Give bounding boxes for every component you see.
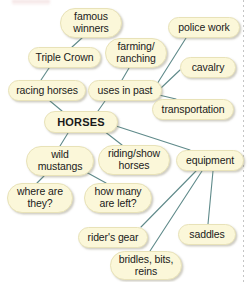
node-uses-in-past[interactable]: uses in past <box>88 80 162 101</box>
node-label-equipment: equipment <box>182 155 238 167</box>
edge-wild-mustangs-how-many-left <box>86 172 106 183</box>
node-racing-horses[interactable]: racing horses <box>8 80 86 101</box>
edge-uses-farming-ranching <box>122 68 129 80</box>
node-label-riding-show-horses: riding/show horses <box>104 148 164 172</box>
node-label-riders-gear: rider's gear <box>84 232 142 244</box>
concept-map-canvas: famous winnerspolice workfarming/ ranchi… <box>0 0 252 282</box>
node-label-wild-mustangs: wild mustangs <box>32 149 88 173</box>
node-label-famous-winners: famous winners <box>66 11 116 35</box>
node-famous-winners[interactable]: famous winners <box>60 8 122 38</box>
node-equipment[interactable]: equipment <box>176 150 244 171</box>
edge-racing-horses-triple-crown <box>41 68 49 80</box>
node-farming-ranching[interactable]: farming/ ranching <box>105 38 167 68</box>
edge-triple-crown-famous-winners <box>72 38 82 47</box>
node-label-racing-horses: racing horses <box>14 85 80 97</box>
node-cavalry[interactable]: cavalry <box>180 57 236 78</box>
edge-equipment-saddles <box>208 171 213 224</box>
edge-wild-mustangs-where-are-they <box>37 176 44 183</box>
node-triple-crown[interactable]: Triple Crown <box>28 47 101 68</box>
node-label-where-are-they: where are they? <box>13 186 67 210</box>
node-label-bridles-bits-reins: bridles, bits, reins <box>116 254 176 278</box>
node-how-many-left[interactable]: how many are left? <box>84 183 152 213</box>
node-saddles[interactable]: saddles <box>178 224 236 245</box>
edge-horses-wild-mustangs <box>60 133 68 146</box>
edge-uses-horses <box>98 101 105 111</box>
edge-racing-horses-horses <box>50 101 62 111</box>
node-label-how-many-left: how many are left? <box>90 186 146 210</box>
node-label-saddles: saddles <box>184 229 230 241</box>
node-where-are-they[interactable]: where are they? <box>7 183 73 213</box>
node-label-horses: HORSES <box>50 116 112 128</box>
node-transportation[interactable]: transportation <box>152 99 234 120</box>
node-label-uses-in-past: uses in past <box>94 85 156 97</box>
node-police-work[interactable]: police work <box>168 17 240 38</box>
node-label-cavalry: cavalry <box>186 62 230 74</box>
edge-horses-riding-show-horses <box>104 131 122 145</box>
node-label-triple-crown: Triple Crown <box>34 52 95 64</box>
node-wild-mustangs[interactable]: wild mustangs <box>26 146 94 176</box>
node-bridles-bits-reins[interactable]: bridles, bits, reins <box>110 251 182 280</box>
node-label-police-work: police work <box>174 22 234 34</box>
node-horses[interactable]: HORSES <box>44 111 118 133</box>
node-label-farming-ranching: farming/ ranching <box>111 41 161 65</box>
node-riders-gear[interactable]: rider's gear <box>78 227 148 248</box>
node-riding-show-horses[interactable]: riding/show horses <box>98 145 170 175</box>
node-label-transportation: transportation <box>158 104 228 116</box>
